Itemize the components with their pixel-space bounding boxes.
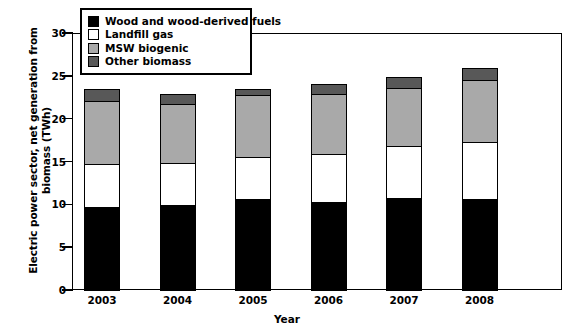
bar-2006 bbox=[311, 33, 347, 290]
legend-item-wood-and-wood-derived-fuels: Wood and wood-derived fuels bbox=[88, 15, 245, 28]
bar-segment bbox=[84, 207, 120, 291]
bar-2007 bbox=[386, 33, 422, 290]
legend-swatch-icon-wood bbox=[88, 16, 99, 27]
legend-item-landfill-gas: Landfill gas bbox=[88, 28, 245, 41]
legend-item-msw-biogenic: MSW biogenic bbox=[88, 42, 245, 55]
bar-segment bbox=[235, 157, 271, 200]
bar-segment bbox=[235, 95, 271, 159]
y-axis-tick-label: 10 bbox=[26, 199, 66, 209]
legend-label: MSW biogenic bbox=[105, 43, 189, 54]
chart-legend: Wood and wood-derived fuels Landfill gas… bbox=[80, 8, 252, 75]
bar-segment bbox=[462, 199, 498, 291]
bar-segment bbox=[386, 198, 422, 291]
y-axis-tick-label: 20 bbox=[26, 114, 66, 124]
x-axis-tick-label: 2004 bbox=[143, 294, 213, 306]
x-axis-title: Year bbox=[0, 313, 574, 325]
legend-label: Wood and wood-derived fuels bbox=[105, 16, 281, 27]
bar-segment bbox=[311, 94, 347, 155]
bar-2008 bbox=[462, 33, 498, 290]
bar-segment bbox=[462, 80, 498, 143]
legend-label: Landfill gas bbox=[105, 29, 173, 40]
stacked-bar-chart: Electric power sector, net generation fr… bbox=[0, 0, 574, 334]
y-axis-tick-label: 30 bbox=[26, 28, 66, 38]
x-axis-tick-label: 2005 bbox=[218, 294, 288, 306]
x-axis-tick-label: 2008 bbox=[445, 294, 515, 306]
bar-segment bbox=[462, 142, 498, 200]
bar-segment bbox=[311, 154, 347, 203]
bar-segment bbox=[160, 163, 196, 206]
bar-segment bbox=[386, 77, 422, 89]
bar-segment bbox=[84, 101, 120, 165]
legend-label: Other biomass bbox=[105, 56, 191, 67]
bar-segment bbox=[386, 88, 422, 147]
bar-segment bbox=[160, 94, 196, 105]
bar-segment bbox=[84, 164, 120, 208]
bar-segment bbox=[311, 202, 347, 291]
bar-segment bbox=[84, 89, 120, 102]
legend-item-other-biomass: Other biomass bbox=[88, 55, 245, 68]
legend-swatch-icon-msw-biogenic bbox=[88, 43, 99, 54]
bar-segment bbox=[311, 84, 347, 94]
bar-segment bbox=[160, 205, 196, 291]
x-axis-tick-label: 2003 bbox=[67, 294, 137, 306]
x-axis-tick-label: 2007 bbox=[369, 294, 439, 306]
legend-swatch-icon-other-biomass bbox=[88, 56, 99, 67]
legend-swatch-icon-landfill-gas bbox=[88, 29, 99, 40]
bar-segment bbox=[160, 104, 196, 164]
bar-segment bbox=[386, 146, 422, 199]
bar-segment bbox=[235, 199, 271, 291]
y-axis-tick-label: 0 bbox=[26, 285, 66, 295]
bar-segment bbox=[462, 68, 498, 81]
y-axis-tick-label: 25 bbox=[26, 71, 66, 81]
y-axis-tick-label: 15 bbox=[26, 157, 66, 167]
y-axis-tick-label: 5 bbox=[26, 242, 66, 252]
bar-segment bbox=[235, 89, 271, 96]
x-axis-tick-label: 2006 bbox=[294, 294, 364, 306]
